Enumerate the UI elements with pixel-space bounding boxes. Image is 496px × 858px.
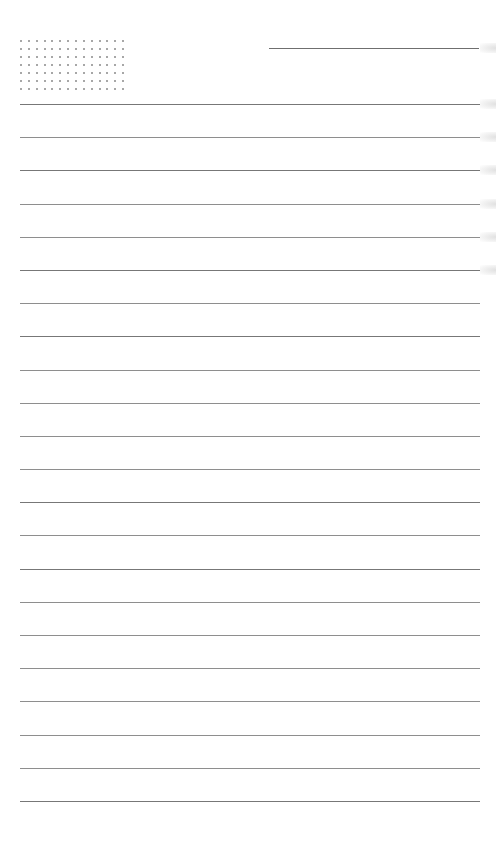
grid-dot [51, 48, 53, 50]
grid-dot [36, 72, 38, 74]
writing-line-text [20, 549, 480, 567]
page-edge-shadow [480, 99, 496, 109]
writing-line-text [20, 184, 480, 202]
grid-dot [91, 72, 93, 74]
ruled-line [20, 336, 480, 337]
grid-dot [28, 48, 30, 50]
page-edge-shadow [480, 132, 496, 142]
grid-dot [67, 64, 69, 66]
grid-dot [114, 56, 116, 58]
ruled-line [20, 204, 480, 205]
grid-dot [75, 72, 77, 74]
ruled-line [20, 535, 480, 536]
grid-dot [51, 72, 53, 74]
grid-dot [20, 72, 22, 74]
grid-dot [59, 56, 61, 58]
grid-dot [83, 64, 85, 66]
grid-dot [36, 64, 38, 66]
grid-dot [83, 56, 85, 58]
grid-dot [51, 64, 53, 66]
grid-dot [20, 64, 22, 66]
grid-dot [99, 48, 101, 50]
ruled-line [20, 270, 480, 271]
writing-line-text [20, 582, 480, 600]
writing-line-text [20, 648, 480, 666]
writing-line-text [20, 383, 480, 401]
writing-line-text [20, 316, 480, 334]
grid-dot [59, 64, 61, 66]
ruled-line [20, 768, 480, 769]
writing-line-text [20, 615, 480, 633]
grid-dot [99, 72, 101, 74]
grid-dot [44, 80, 46, 82]
grid-dot [99, 80, 101, 82]
grid-dot [36, 80, 38, 82]
ruled-line [20, 137, 480, 138]
grid-dot [20, 56, 22, 58]
grid-dot [44, 72, 46, 74]
dot-grid-decoration [0, 0, 496, 120]
ruled-line [20, 370, 480, 371]
grid-dot [67, 48, 69, 50]
grid-dot [28, 40, 30, 42]
grid-dot [28, 80, 30, 82]
ruled-line [20, 602, 480, 603]
grid-dot [99, 40, 101, 42]
grid-dot [44, 40, 46, 42]
grid-dot [36, 40, 38, 42]
writing-line-text [20, 482, 480, 500]
page-edge-shadow [480, 199, 496, 209]
grid-dot [91, 56, 93, 58]
grid-dot [122, 80, 124, 82]
grid-dot [44, 64, 46, 66]
grid-dot [83, 40, 85, 42]
grid-dot [75, 80, 77, 82]
grid-dot [122, 56, 124, 58]
grid-dot [122, 48, 124, 50]
grid-dot [114, 40, 116, 42]
grid-dot [59, 80, 61, 82]
grid-dot [75, 48, 77, 50]
page-edge-shadow [480, 265, 496, 275]
writing-line-text [20, 681, 480, 699]
grid-dot [106, 40, 108, 42]
grid-dot [83, 72, 85, 74]
grid-dot [91, 80, 93, 82]
writing-line-text [20, 748, 480, 766]
title-underline [269, 48, 479, 49]
grid-dot [114, 48, 116, 50]
writing-line-text [20, 515, 480, 533]
grid-dot [67, 40, 69, 42]
grid-dot [59, 72, 61, 74]
ruled-line [20, 502, 480, 503]
notebook-page [0, 0, 496, 858]
ruled-line [20, 635, 480, 636]
grid-dot [114, 64, 116, 66]
grid-dot [75, 64, 77, 66]
grid-dot [67, 56, 69, 58]
grid-dot [106, 72, 108, 74]
grid-dot [59, 48, 61, 50]
grid-dot [122, 64, 124, 66]
page-edge-shadow [480, 43, 496, 53]
ruled-line [20, 668, 480, 669]
ruled-line [20, 801, 480, 802]
grid-dot [51, 56, 53, 58]
grid-dot [20, 80, 22, 82]
grid-dot [44, 56, 46, 58]
grid-dot [99, 56, 101, 58]
writing-line-text [20, 350, 480, 368]
grid-dot [106, 64, 108, 66]
writing-line-text [20, 283, 480, 301]
writing-line-text [20, 416, 480, 434]
writing-line-text [20, 84, 480, 102]
ruled-line [20, 569, 480, 570]
writing-line-text [20, 250, 480, 268]
page-edge-shadow [480, 232, 496, 242]
grid-dot [91, 40, 93, 42]
grid-dot [122, 72, 124, 74]
writing-line-text [20, 217, 480, 235]
writing-line-text [20, 715, 480, 733]
ruled-line [20, 701, 480, 702]
ruled-line [20, 303, 480, 304]
